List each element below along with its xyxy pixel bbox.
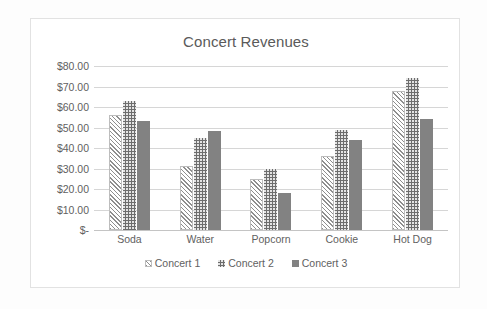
- bar[interactable]: [321, 156, 334, 230]
- bars-layer: [94, 66, 448, 230]
- y-axis-tick-label: $50.00: [31, 122, 89, 134]
- y-axis-tick-label: $20.00: [31, 183, 89, 195]
- bar[interactable]: [406, 78, 419, 230]
- bar[interactable]: [123, 101, 136, 230]
- y-axis-tick-label: $40.00: [31, 142, 89, 154]
- axis-baseline: [94, 230, 448, 231]
- x-axis-tick-label: Cookie: [325, 233, 358, 245]
- x-axis-tick-label: Hot Dog: [393, 233, 432, 245]
- y-axis-tick-label: $10.00: [31, 204, 89, 216]
- bar[interactable]: [392, 91, 405, 230]
- bar-group: [377, 66, 448, 230]
- legend-label: Concert 3: [302, 257, 348, 269]
- plot-area: [94, 66, 448, 230]
- bar[interactable]: [109, 115, 122, 230]
- bar[interactable]: [137, 121, 150, 230]
- legend-label: Concert 2: [228, 257, 274, 269]
- legend-swatch-icon: [145, 260, 152, 267]
- bar-group: [165, 66, 236, 230]
- bar[interactable]: [264, 169, 277, 231]
- bar[interactable]: [420, 119, 433, 230]
- bar[interactable]: [180, 166, 193, 230]
- chart-frame: Concert Revenues $80.00$70.00$60.00$50.0…: [30, 18, 460, 288]
- bar-group: [236, 66, 307, 230]
- plot-wrapper: $80.00$70.00$60.00$50.00$40.00$30.00$20.…: [31, 19, 461, 289]
- bar-group: [306, 66, 377, 230]
- chart-legend: Concert 1Concert 2Concert 3: [31, 257, 461, 269]
- legend-item[interactable]: Concert 2: [218, 257, 274, 269]
- x-axis: SodaWaterPopcornCookieHot Dog: [94, 233, 448, 251]
- bar[interactable]: [335, 130, 348, 230]
- legend-label: Concert 1: [155, 257, 201, 269]
- legend-item[interactable]: Concert 1: [145, 257, 201, 269]
- y-axis-tick-label: $70.00: [31, 81, 89, 93]
- x-axis-tick-label: Water: [186, 233, 214, 245]
- bar[interactable]: [250, 179, 263, 230]
- x-axis-tick-label: Soda: [117, 233, 142, 245]
- legend-item[interactable]: Concert 3: [292, 257, 348, 269]
- bar[interactable]: [208, 131, 221, 230]
- y-axis-tick-label: $60.00: [31, 101, 89, 113]
- y-axis-tick-label: $30.00: [31, 163, 89, 175]
- y-axis-tick-label: $80.00: [31, 60, 89, 72]
- y-axis: $80.00$70.00$60.00$50.00$40.00$30.00$20.…: [31, 19, 93, 289]
- legend-swatch-icon: [218, 260, 225, 267]
- legend-swatch-icon: [292, 260, 299, 267]
- bar-group: [94, 66, 165, 230]
- y-axis-tick-label: $-: [31, 224, 89, 236]
- bar[interactable]: [349, 140, 362, 230]
- bar[interactable]: [278, 193, 291, 230]
- x-axis-tick-label: Popcorn: [251, 233, 290, 245]
- bar[interactable]: [194, 138, 207, 230]
